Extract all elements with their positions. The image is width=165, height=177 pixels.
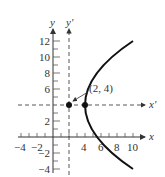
parabola-diagram: x y x' y' −4 (0, 0, 165, 177)
y-tick-label: 2 (45, 115, 51, 127)
y-tick-label: 8 (45, 67, 51, 79)
y-prime-axis: y' (65, 16, 74, 175)
x-axis-label: x (148, 130, 154, 142)
y-axis-label: y (49, 16, 55, 28)
y-prime-axis-label: y' (65, 16, 74, 28)
x-prime-axis-label: x' (148, 98, 157, 110)
x-tick-label: 4 (81, 141, 87, 153)
y-tick-label: −4 (38, 163, 50, 175)
x-tick-labels: −4 −2 4 6 8 10 (14, 141, 139, 153)
y-tick-label: 12 (39, 35, 50, 47)
y-tick-label: 6 (45, 83, 51, 95)
y-axis: y (49, 16, 60, 173)
x-tick-label: 10 (127, 141, 139, 153)
vertex-label: (2, 4) (89, 82, 113, 95)
vertex-point (66, 102, 72, 108)
x-tick-label: 8 (114, 141, 120, 153)
focus-point (82, 102, 88, 108)
x-tick-label: −4 (14, 141, 26, 153)
y-tick-label: 10 (39, 51, 51, 63)
y-tick-label: −2 (38, 147, 50, 159)
